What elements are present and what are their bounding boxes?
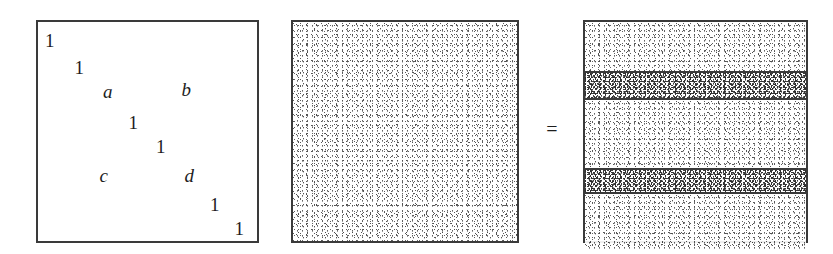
matrix-entry-d-7: d [185,166,195,185]
matrix-entry-b-3: b [182,79,192,98]
result-band-1-light [585,22,806,71]
light-stipple-fill [585,194,806,249]
dense-matrix-panel [291,20,519,243]
matrix-entry-1-8: 1 [210,194,220,213]
matrix-entry-a-2: a [103,81,113,100]
matrix-entry-1-4: 1 [129,113,139,132]
equals-operator: = [541,118,563,140]
matrix-entry-1-5: 1 [156,136,166,155]
result-band-3-light [585,98,806,169]
shaded-stipple-fill [585,73,806,98]
sparse-matrix-panel: 11ab11cd11 [36,20,259,243]
matrix-entry-1-9: 1 [235,219,245,238]
result-band-4-shaded [585,168,806,192]
result-band-2-shaded [585,71,806,98]
matrix-entry-1-1: 1 [74,58,84,77]
matrix-entry-1-0: 1 [45,30,55,49]
dense-stipple-fill [293,22,517,241]
matrix-product-figure: 11ab11cd11 = [0,0,833,254]
matrix-entry-c-6: c [99,166,107,185]
shaded-stipple-fill [585,170,806,192]
banded-matrix-panel [583,20,808,243]
result-band-5-light [585,192,806,249]
light-stipple-fill [585,22,806,71]
light-stipple-fill [585,100,806,169]
